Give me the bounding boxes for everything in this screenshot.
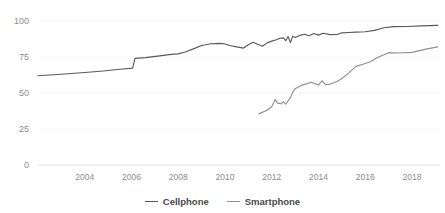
legend-label-smartphone: Smartphone	[245, 196, 300, 207]
x-axis-tick-labels: 20042006200820102012201420162018	[75, 172, 421, 182]
chart-legend: Cellphone Smartphone	[0, 196, 445, 207]
legend-marker-cellphone-icon	[145, 201, 158, 202]
x-axis-tick-label: 2010	[216, 172, 235, 182]
chart-plot-area: 0255075100 20042006200820102012201420162…	[0, 0, 445, 213]
y-axis-tick-label: 25	[19, 124, 29, 134]
line-chart: 0255075100 20042006200820102012201420162…	[0, 0, 445, 213]
legend-label-cellphone: Cellphone	[163, 196, 209, 207]
legend-item-cellphone[interactable]: Cellphone	[145, 196, 209, 207]
y-axis-tick-label: 75	[19, 52, 29, 62]
gridlines	[38, 21, 440, 129]
y-axis-tick-label: 50	[19, 88, 29, 98]
legend-marker-smartphone-icon	[227, 201, 240, 202]
x-axis-tick-label: 2018	[402, 172, 421, 182]
series-line-cellphone	[38, 25, 438, 75]
y-axis-tick-label: 0	[24, 160, 29, 170]
x-axis-tick-label: 2016	[356, 172, 375, 182]
y-axis-tick-label: 100	[14, 16, 29, 26]
x-axis-tick-label: 2014	[309, 172, 328, 182]
x-axis-tick-label: 2004	[75, 172, 94, 182]
legend-item-smartphone[interactable]: Smartphone	[227, 196, 300, 207]
y-axis-tick-labels: 0255075100	[14, 16, 29, 170]
x-axis-tick-label: 2012	[262, 172, 281, 182]
x-axis-tick-label: 2008	[169, 172, 188, 182]
data-series-lines	[38, 25, 438, 114]
x-axis-tick-label: 2006	[122, 172, 141, 182]
